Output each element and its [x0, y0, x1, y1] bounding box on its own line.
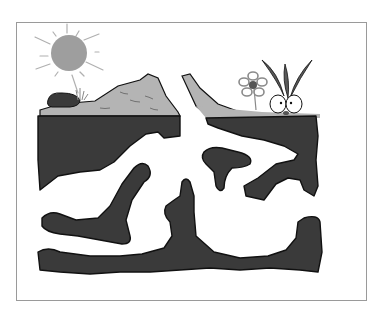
rock-icon [48, 93, 81, 107]
flower-icon [239, 72, 267, 110]
illustration [0, 0, 388, 316]
grass-icon [76, 88, 88, 100]
sun-icon [35, 24, 103, 93]
sprout-icon [262, 60, 312, 115]
soil-icon [38, 116, 322, 274]
